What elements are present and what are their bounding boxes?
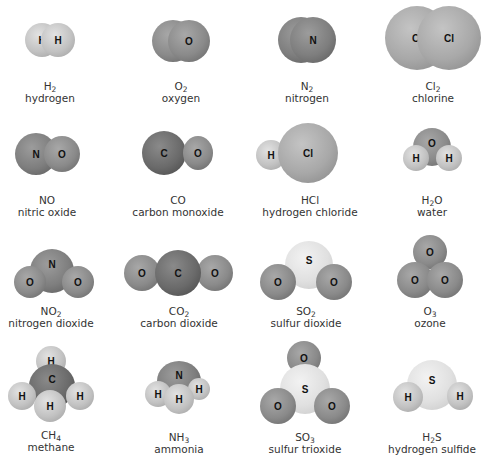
formula: CH4 bbox=[0, 429, 116, 441]
atom-oxygen: O bbox=[14, 266, 46, 298]
name: ammonia bbox=[114, 443, 244, 455]
name: carbon monoxide bbox=[113, 206, 243, 218]
formula: O2 bbox=[116, 80, 246, 92]
formula: Cl2 bbox=[368, 80, 490, 92]
atom-hydrogen: H bbox=[447, 382, 473, 410]
name: chlorine bbox=[368, 92, 490, 104]
atom-oxygen: O bbox=[316, 264, 352, 300]
formula: SO2 bbox=[241, 305, 371, 317]
formula: NH3 bbox=[114, 431, 244, 443]
atom-hydrogen: H bbox=[164, 384, 194, 414]
label-h2o: H2O water bbox=[367, 194, 490, 218]
label-nh3: NH3 ammonia bbox=[114, 431, 244, 455]
formula: HCl bbox=[245, 194, 375, 206]
label-so2: SO2 sulfur dioxide bbox=[241, 305, 371, 329]
label-ch4: CH4 methane bbox=[0, 429, 116, 453]
atom-chlorine: Cl bbox=[278, 123, 338, 183]
atom-oxygen: O bbox=[44, 136, 80, 172]
atom-oxygen: O bbox=[62, 266, 94, 298]
label-cl2: Cl2 chlorine bbox=[368, 80, 490, 104]
atom-oxygen: O bbox=[260, 264, 296, 300]
formula: O3 bbox=[365, 305, 490, 317]
atom-hydrogen: H bbox=[34, 390, 66, 422]
atom-carbon: C bbox=[142, 131, 186, 175]
label-n2: N2 nitrogen bbox=[242, 80, 372, 104]
formula: H2 bbox=[0, 80, 115, 92]
atom-oxygen: O bbox=[427, 262, 463, 298]
label-so3: SO3 sulfur trioxide bbox=[240, 431, 370, 455]
atom-hydrogen: H bbox=[393, 382, 423, 412]
atom-hydrogen: H bbox=[41, 23, 75, 57]
name: nitrogen dioxide bbox=[0, 317, 116, 329]
atom-hydrogen: H bbox=[66, 382, 94, 410]
name: hydrogen bbox=[0, 92, 115, 104]
name: nitrogen bbox=[242, 92, 372, 104]
label-o3: O3 ozone bbox=[365, 305, 490, 329]
name: hydrogen chloride bbox=[245, 206, 375, 218]
atom-chlorine: Cl bbox=[417, 6, 481, 70]
formula: NO bbox=[0, 194, 112, 206]
label-co: CO carbon monoxide bbox=[113, 194, 243, 218]
formula: SO3 bbox=[240, 431, 370, 443]
name: water bbox=[367, 206, 490, 218]
name: oxygen bbox=[116, 92, 246, 104]
label-o2: O2 oxygen bbox=[116, 80, 246, 104]
atom-hydrogen: H bbox=[436, 145, 462, 171]
name: hydrogen sulfide bbox=[367, 443, 490, 455]
formula: H2S bbox=[367, 431, 490, 443]
label-no2: NO2 nitrogen dioxide bbox=[0, 305, 116, 329]
name: methane bbox=[0, 441, 116, 453]
label-no: NO nitric oxide bbox=[0, 194, 112, 218]
name: sulfur trioxide bbox=[240, 443, 370, 455]
formula: CO bbox=[113, 194, 243, 206]
label-hcl: HCl hydrogen chloride bbox=[245, 194, 375, 218]
atom-carbon: C bbox=[155, 250, 201, 296]
name: carbon dioxide bbox=[114, 317, 244, 329]
name: sulfur dioxide bbox=[241, 317, 371, 329]
atom-oxygen: O bbox=[197, 255, 233, 291]
atom-hydrogen: H bbox=[403, 145, 429, 171]
formula: N2 bbox=[242, 80, 372, 92]
atom-oxygen: O bbox=[168, 20, 210, 62]
label-h2: H2 hydrogen bbox=[0, 80, 115, 104]
atom-oxygen: O bbox=[260, 388, 296, 424]
name: ozone bbox=[365, 317, 490, 329]
name: nitric oxide bbox=[0, 206, 112, 218]
atom-nitrogen: N bbox=[290, 17, 336, 63]
label-h2s: H2S hydrogen sulfide bbox=[367, 431, 490, 455]
atom-oxygen: O bbox=[314, 388, 350, 424]
atom-oxygen: O bbox=[183, 136, 213, 170]
formula: CO2 bbox=[114, 305, 244, 317]
formula: NO2 bbox=[0, 305, 116, 317]
label-co2: CO2 carbon dioxide bbox=[114, 305, 244, 329]
formula: H2O bbox=[367, 194, 490, 206]
atom-hydrogen: H bbox=[8, 382, 36, 410]
